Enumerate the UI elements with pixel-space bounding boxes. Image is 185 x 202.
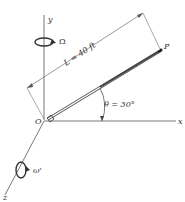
length-dimension (27, 13, 160, 119)
omega-label: Ω (59, 37, 66, 46)
z-axis (5, 121, 44, 195)
length-label: L = 40 ft (61, 40, 98, 68)
origin-label: O (35, 117, 42, 126)
z-axis-label: z (2, 193, 8, 202)
omega-prime-label: ω' (33, 166, 42, 175)
y-axis-label: y (47, 15, 53, 24)
x-axis-label: x (178, 117, 183, 126)
boom-rotation-diagram: y x z O P Ω ω' θ = 30° L = 40 ft (0, 0, 185, 202)
angle-label: θ = 30° (104, 100, 135, 109)
point-p-label: P (163, 42, 170, 51)
rotation-arrow-omega-icon (35, 38, 56, 46)
